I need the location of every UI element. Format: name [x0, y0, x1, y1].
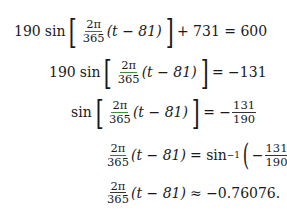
- fraction: 2π 365: [108, 99, 132, 124]
- equation-line-2: 190 sin [ 2π 365 (t − 81) ] = −131: [49, 55, 267, 89]
- rhs-fraction: 131 190: [232, 99, 256, 124]
- argument: (t − 81): [131, 147, 186, 163]
- function-name: sin: [80, 64, 101, 80]
- left-paren: (: [243, 140, 249, 170]
- fraction-numerator: 2π: [85, 18, 102, 31]
- rhs-numerator: 131: [265, 142, 287, 155]
- result: ≈ −0.76076.: [190, 185, 280, 201]
- fraction-denominator: 365: [117, 73, 141, 85]
- equation-line-3: sin [ 2π 365 (t − 81) ] = − 131 190: [71, 95, 257, 129]
- right-bracket: ]: [200, 55, 208, 89]
- argument: (t − 81): [131, 185, 186, 201]
- function-name: sin: [71, 104, 92, 120]
- coefficient: 190: [14, 23, 41, 39]
- fraction: 2π 365: [117, 59, 141, 84]
- relation: = sin: [190, 147, 227, 163]
- argument: (t − 81): [133, 104, 188, 120]
- rhs-fraction: 131 190: [265, 142, 287, 167]
- fraction-numerator: 2π: [120, 59, 137, 72]
- argument: (t − 81): [107, 23, 162, 39]
- rest: + 731 = 600: [177, 23, 267, 39]
- function-name: sin: [45, 23, 66, 39]
- rest: = −131: [212, 64, 267, 80]
- fraction-numerator: 2π: [111, 99, 128, 112]
- right-bracket: ]: [165, 14, 173, 48]
- rhs-denominator: 190: [265, 156, 287, 168]
- fraction-denominator: 365: [106, 193, 130, 205]
- rhs-numerator: 131: [232, 99, 256, 112]
- left-bracket: [: [69, 14, 77, 48]
- equation-line-5: 2π 365 (t − 81) ≈ −0.76076.: [105, 180, 280, 205]
- argument: (t − 81): [142, 64, 197, 80]
- minus-sign: −: [252, 147, 264, 163]
- coefficient: 190: [49, 64, 76, 80]
- fraction-denominator: 365: [106, 156, 130, 168]
- fraction: 2π 365: [106, 142, 130, 167]
- equation-line-1: 190 sin [ 2π 365 (t − 81) ] + 731 = 600: [14, 14, 267, 48]
- rhs-denominator: 190: [232, 113, 256, 125]
- left-bracket: [: [95, 95, 103, 129]
- fraction: 2π 365: [82, 18, 106, 43]
- equation-line-4: 2π 365 (t − 81) = sin−1 ( − 131 190 ): [105, 140, 287, 170]
- inverse-superscript: −1: [227, 150, 240, 160]
- right-bracket: ]: [192, 95, 200, 129]
- relation: = −: [203, 104, 231, 120]
- fraction-numerator: 2π: [110, 142, 127, 155]
- fraction-denominator: 365: [108, 113, 132, 125]
- fraction: 2π 365: [106, 180, 130, 205]
- fraction-denominator: 365: [82, 32, 106, 44]
- left-bracket: [: [104, 55, 112, 89]
